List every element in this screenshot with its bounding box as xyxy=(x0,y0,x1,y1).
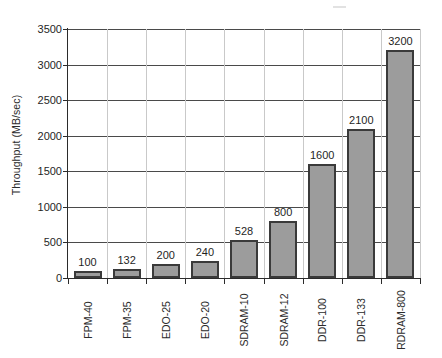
x-tick-mark-FPM-40 xyxy=(107,278,108,284)
bar-value-SDRAM-10: 528 xyxy=(235,225,253,237)
category-separator-FPM-40 xyxy=(107,29,108,278)
x-category-label-FPM-40: FPM-40 xyxy=(80,284,96,358)
y-tick-label-0: 0 xyxy=(20,272,62,284)
category-separator-EDO-20 xyxy=(224,29,225,278)
gridline-2500 xyxy=(68,100,420,101)
category-separator-RDRAM-800 xyxy=(420,29,421,278)
bar-value-EDO-20: 240 xyxy=(196,246,214,258)
x-category-label-text: SDRAM-10 xyxy=(238,293,250,346)
x-category-label-text: DDR-100 xyxy=(316,298,328,342)
y-tick-label-2500: 2500 xyxy=(20,94,62,106)
x-tick-mark-EDO-25 xyxy=(185,278,186,284)
bar-SDRAM-12[interactable] xyxy=(269,221,297,278)
bar-FPM-35[interactable] xyxy=(113,269,141,278)
x-category-label-RDRAM-800: RDRAM-800 xyxy=(392,284,408,358)
x-category-label-SDRAM-12: SDRAM-12 xyxy=(275,284,291,358)
x-tick-mark-DDR-133 xyxy=(381,278,382,284)
category-separator-DDR-133 xyxy=(381,29,382,278)
gridline-3000 xyxy=(68,65,420,66)
y-tick-mark-1000 xyxy=(63,207,68,208)
bar-value-SDRAM-12: 800 xyxy=(274,206,292,218)
bar-EDO-20[interactable] xyxy=(191,261,219,278)
category-separator-SDRAM-10 xyxy=(264,29,265,278)
x-category-label-text: SDRAM-12 xyxy=(277,293,289,346)
x-tick-mark-RDRAM-800 xyxy=(420,278,421,284)
x-tick-mark-EDO-20 xyxy=(224,278,225,284)
x-category-label-DDR-133: DDR-133 xyxy=(353,284,369,358)
x-category-label-EDO-25: EDO-25 xyxy=(158,284,174,358)
y-tick-mark-2500 xyxy=(63,100,68,101)
x-tick-mark-DDR-100 xyxy=(342,278,343,284)
x-tick-mark-FPM-35 xyxy=(146,278,147,284)
y-tick-mark-1500 xyxy=(63,171,68,172)
x-tick-mark-origin xyxy=(68,278,69,284)
bar-DDR-100[interactable] xyxy=(308,164,336,278)
y-tick-mark-3000 xyxy=(63,65,68,66)
bar-value-DDR-100: 1600 xyxy=(310,149,334,161)
y-tick-label-2000: 2000 xyxy=(20,130,62,142)
category-separator-EDO-25 xyxy=(185,29,186,278)
y-tick-mark-2000 xyxy=(63,136,68,137)
x-category-label-DDR-100: DDR-100 xyxy=(314,284,330,358)
x-category-label-text: EDO-20 xyxy=(199,301,211,339)
y-tick-mark-3500 xyxy=(63,29,68,30)
x-category-label-SDRAM-10: SDRAM-10 xyxy=(236,284,252,358)
bar-value-FPM-35: 132 xyxy=(117,254,135,266)
x-category-label-text: FPM-40 xyxy=(82,301,94,338)
category-separator-DDR-100 xyxy=(342,29,343,278)
bar-FPM-40[interactable] xyxy=(74,271,102,278)
bar-EDO-25[interactable] xyxy=(152,264,180,278)
x-tick-mark-SDRAM-10 xyxy=(264,278,265,284)
y-tick-label-1000: 1000 xyxy=(20,201,62,213)
plot-area xyxy=(68,29,420,278)
y-axis-line xyxy=(67,28,68,279)
y-axis-title-text: Throughput (MB/sec) xyxy=(10,95,22,196)
y-tick-mark-500 xyxy=(63,242,68,243)
bar-RDRAM-800[interactable] xyxy=(386,50,414,278)
bar-DDR-133[interactable] xyxy=(347,129,375,278)
bar-value-DDR-133: 2100 xyxy=(349,114,373,126)
category-separator-SDRAM-12 xyxy=(303,29,304,278)
bar-chart-figure: Throughput (MB/sec) 05001000150020002500… xyxy=(0,0,442,358)
x-category-label-text: RDRAM-800 xyxy=(394,290,406,350)
x-category-label-text: EDO-25 xyxy=(160,301,172,339)
bar-value-FPM-40: 100 xyxy=(78,256,96,268)
gridline-0 xyxy=(68,278,420,279)
y-tick-label-1500: 1500 xyxy=(20,165,62,177)
scan-artifact xyxy=(333,6,346,8)
x-tick-mark-SDRAM-12 xyxy=(303,278,304,284)
bar-value-EDO-25: 200 xyxy=(157,249,175,261)
bar-value-RDRAM-800: 3200 xyxy=(388,35,412,47)
bar-SDRAM-10[interactable] xyxy=(230,240,258,278)
y-tick-label-3500: 3500 xyxy=(20,23,62,35)
category-separator-FPM-35 xyxy=(146,29,147,278)
y-tick-label-500: 500 xyxy=(20,236,62,248)
x-category-label-text: FPM-35 xyxy=(121,301,133,338)
gridline-3500 xyxy=(68,29,420,30)
x-category-label-FPM-35: FPM-35 xyxy=(119,284,135,358)
x-category-label-text: DDR-133 xyxy=(355,298,367,342)
y-tick-label-3000: 3000 xyxy=(20,59,62,71)
x-category-label-EDO-20: EDO-20 xyxy=(197,284,213,358)
